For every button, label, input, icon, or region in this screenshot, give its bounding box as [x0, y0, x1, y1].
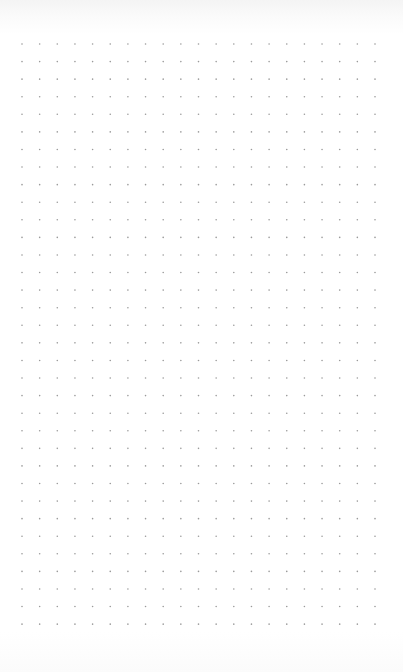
notebook-canvas[interactable]	[0, 0, 403, 672]
grid-dot	[374, 114, 376, 116]
grid-dot	[357, 448, 359, 450]
grid-dot	[268, 166, 270, 168]
grid-dot	[198, 78, 200, 80]
grid-dot	[286, 43, 288, 45]
grid-dot	[321, 78, 323, 80]
grid-dot	[321, 201, 323, 203]
grid-dot	[145, 500, 147, 502]
grid-dot	[251, 571, 253, 573]
grid-dot	[21, 149, 23, 151]
grid-dot	[162, 342, 164, 344]
grid-dot	[215, 588, 217, 590]
grid-dot	[127, 61, 129, 63]
grid-dot	[57, 78, 59, 80]
grid-dot	[286, 324, 288, 326]
grid-dot	[268, 535, 270, 537]
grid-dot	[304, 114, 306, 116]
grid-dot	[39, 606, 41, 608]
grid-dot	[57, 518, 59, 520]
grid-dot	[357, 201, 359, 203]
grid-dot	[268, 254, 270, 256]
grid-dot	[74, 500, 76, 502]
grid-dot	[268, 289, 270, 291]
grid-dot	[57, 588, 59, 590]
grid-dot	[339, 623, 341, 625]
grid-dot	[339, 360, 341, 362]
grid-dot	[180, 131, 182, 133]
grid-dot	[127, 448, 129, 450]
grid-dot	[374, 324, 376, 326]
grid-dot	[74, 149, 76, 151]
grid-dot	[109, 131, 111, 133]
grid-dot	[180, 166, 182, 168]
grid-dot	[304, 606, 306, 608]
grid-dot	[233, 606, 235, 608]
grid-dot	[339, 114, 341, 116]
grid-dot	[233, 412, 235, 414]
grid-dot	[321, 412, 323, 414]
grid-dot	[21, 623, 23, 625]
grid-dot	[109, 96, 111, 98]
grid-dot	[92, 272, 94, 274]
grid-dot	[39, 360, 41, 362]
dot-grid-pattern	[0, 0, 403, 672]
grid-dot	[215, 324, 217, 326]
grid-dot	[109, 500, 111, 502]
grid-dot	[357, 96, 359, 98]
grid-dot	[304, 500, 306, 502]
grid-dot	[92, 166, 94, 168]
grid-dot	[21, 395, 23, 397]
grid-dot	[233, 237, 235, 239]
grid-dot	[286, 272, 288, 274]
grid-dot	[21, 43, 23, 45]
grid-dot	[357, 412, 359, 414]
grid-dot	[145, 166, 147, 168]
grid-dot	[321, 360, 323, 362]
grid-dot	[74, 131, 76, 133]
grid-dot	[215, 500, 217, 502]
grid-dot	[233, 377, 235, 379]
grid-dot	[109, 307, 111, 309]
grid-dot	[286, 465, 288, 467]
grid-dot	[21, 606, 23, 608]
grid-dot	[215, 61, 217, 63]
grid-dot	[339, 395, 341, 397]
grid-dot	[127, 96, 129, 98]
grid-dot	[74, 535, 76, 537]
grid-dot	[339, 61, 341, 63]
grid-dot	[233, 395, 235, 397]
grid-dot	[180, 571, 182, 573]
grid-dot	[162, 219, 164, 221]
grid-dot	[198, 114, 200, 116]
grid-dot	[74, 377, 76, 379]
grid-dot	[39, 114, 41, 116]
grid-dot	[374, 149, 376, 151]
grid-dot	[39, 201, 41, 203]
grid-dot	[268, 448, 270, 450]
grid-dot	[304, 553, 306, 555]
grid-dot	[57, 201, 59, 203]
grid-dot	[357, 518, 359, 520]
grid-dot	[251, 448, 253, 450]
grid-dot	[304, 395, 306, 397]
grid-dot	[286, 254, 288, 256]
grid-dot	[198, 448, 200, 450]
grid-dot	[39, 307, 41, 309]
grid-dot	[92, 289, 94, 291]
grid-dot	[286, 448, 288, 450]
grid-dot	[233, 483, 235, 485]
grid-dot	[339, 535, 341, 537]
grid-dot	[127, 324, 129, 326]
grid-dot	[198, 289, 200, 291]
grid-dot	[304, 412, 306, 414]
grid-dot	[198, 201, 200, 203]
grid-dot	[357, 465, 359, 467]
grid-dot	[109, 623, 111, 625]
grid-dot	[374, 289, 376, 291]
grid-dot	[321, 166, 323, 168]
grid-dot	[251, 395, 253, 397]
grid-dot	[145, 535, 147, 537]
grid-dot	[357, 43, 359, 45]
grid-dot	[374, 131, 376, 133]
grid-dot	[268, 307, 270, 309]
